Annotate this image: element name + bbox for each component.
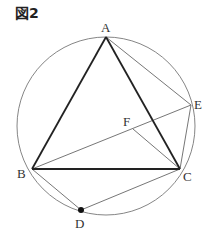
geometry-diagram: A B C D E F [0,0,213,237]
circumcircle [17,37,195,215]
label-E: E [194,97,202,112]
segment-FC [133,129,180,169]
segment-AB [32,37,106,169]
point-D-marker [78,207,84,213]
label-C: C [183,169,192,184]
segment-DC [81,169,180,210]
label-B: B [17,166,26,181]
segment-BD [32,169,81,210]
label-A: A [101,20,111,35]
segment-EC [180,105,191,169]
segment-AE [106,37,191,105]
label-F: F [123,114,130,129]
segment-AC [106,37,180,169]
label-D: D [75,216,84,231]
segment-BE [32,105,191,169]
